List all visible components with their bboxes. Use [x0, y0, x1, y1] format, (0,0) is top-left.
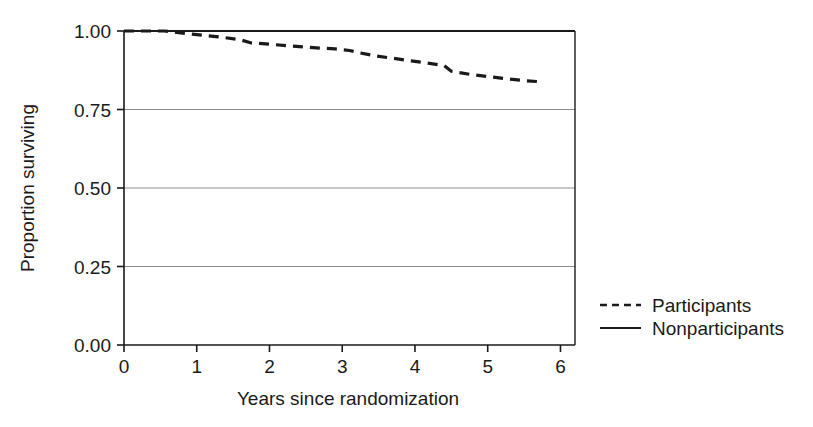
survival-curve-chart: 0.000.250.500.751.00 0123456 Participant…	[0, 0, 813, 427]
x-tick-label-4: 4	[410, 356, 421, 377]
y-tick-label-2: 0.50	[74, 178, 111, 199]
legend-label-participants: Participants	[652, 295, 751, 316]
y-tick-label-4: 1.00	[74, 21, 111, 42]
y-axis-title: Proportion surviving	[17, 104, 38, 272]
y-tick-label-3: 0.75	[74, 100, 111, 121]
x-tick-label-6: 6	[555, 356, 566, 377]
legend-label-nonparticipants: Nonparticipants	[652, 318, 784, 339]
x-tick-label-3: 3	[337, 356, 348, 377]
x-axis-title: Years since randomization	[237, 388, 459, 409]
x-tick-label-0: 0	[119, 356, 130, 377]
y-tick-label-0: 0.00	[74, 335, 111, 356]
x-tick-label-5: 5	[482, 356, 493, 377]
x-tick-label-2: 2	[264, 356, 275, 377]
x-tick-label-1: 1	[191, 356, 202, 377]
y-tick-label-1: 0.25	[74, 257, 111, 278]
figure-container: 0.000.250.500.751.00 0123456 Participant…	[0, 0, 813, 427]
